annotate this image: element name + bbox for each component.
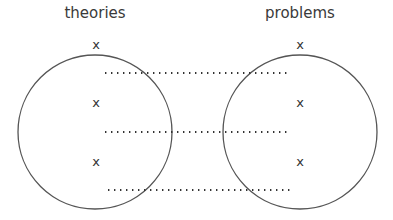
diagram-canvas [0, 0, 393, 220]
theory-mark-1: x [92, 37, 100, 52]
problems-label: problems [265, 4, 335, 22]
problems-circle [223, 55, 377, 209]
theories-circle [18, 55, 172, 209]
theory-mark-3: x [92, 154, 100, 169]
problem-mark-2: x [296, 95, 304, 110]
theories-label: theories [64, 4, 125, 22]
problem-mark-1: x [296, 37, 304, 52]
problem-mark-3: x [296, 154, 304, 169]
theory-mark-2: x [92, 95, 100, 110]
